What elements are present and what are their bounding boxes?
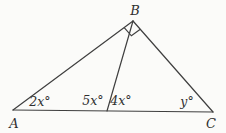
angle-label-2x: 2x° xyxy=(28,94,50,109)
angle-label-5x: 5x° xyxy=(82,93,103,108)
segment-side-AC xyxy=(13,110,213,112)
triangle-diagram: ABC2x°5x°4x°y° xyxy=(0,0,226,133)
figure-canvas: ABC2x°5x°4x°y° xyxy=(0,0,226,133)
vertex-label-A: A xyxy=(8,116,18,131)
segment-side-BC xyxy=(133,21,213,112)
vertex-label-C: C xyxy=(206,116,216,131)
angle-label-y: y° xyxy=(179,94,193,109)
vertex-label-B: B xyxy=(129,3,140,18)
angle-label-4x: 4x° xyxy=(109,93,131,108)
right-angle-marker xyxy=(124,28,140,36)
